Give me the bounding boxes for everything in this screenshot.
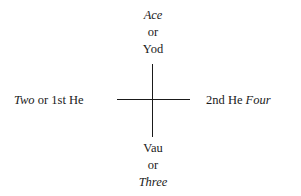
horizontal-line: [117, 99, 190, 100]
top-label-yod: Yod: [143, 41, 163, 57]
top-connector-or: or: [148, 24, 158, 40]
top-label-ace: Ace: [144, 7, 163, 23]
bottom-connector-or: or: [148, 157, 158, 173]
right-label: 2nd He Four: [206, 92, 271, 108]
vertical-line: [152, 64, 153, 137]
bottom-label-three: Three: [139, 174, 168, 190]
right-label-four: Four: [246, 93, 271, 107]
right-label-2nd-he: 2nd He: [206, 93, 242, 107]
left-label: Two or 1st He: [14, 92, 84, 108]
bottom-label-vau: Vau: [143, 140, 162, 156]
left-label-two: Two: [14, 93, 35, 107]
left-connector-or: or: [38, 93, 48, 107]
left-label-1st-he: 1st He: [51, 93, 83, 107]
